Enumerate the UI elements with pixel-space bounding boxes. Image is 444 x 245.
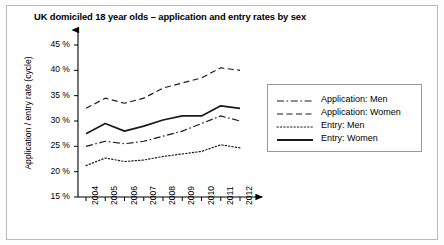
chart-figure: UK domiciled 18 year olds – application …	[0, 0, 444, 245]
legend: Application: MenApplication: WomenEntry:…	[267, 84, 422, 152]
legend-item[interactable]: Application: Women	[276, 105, 415, 118]
series-line	[86, 145, 240, 166]
series-line	[86, 106, 240, 134]
legend-item[interactable]: Entry: Men	[276, 118, 415, 131]
legend-label: Entry: Men	[321, 120, 365, 130]
legend-item[interactable]: Application: Men	[276, 92, 415, 105]
legend-key-dashed-icon	[276, 106, 314, 118]
legend-key-dash-dot-icon	[276, 93, 314, 105]
series-line	[86, 68, 240, 109]
legend-label: Application: Women	[321, 107, 401, 117]
legend-label: Application: Men	[321, 94, 388, 104]
axes	[74, 30, 262, 201]
legend-label: Entry: Women	[321, 133, 378, 143]
legend-key-dotted-icon	[276, 119, 314, 131]
legend-item[interactable]: Entry: Women	[276, 131, 415, 144]
legend-key-solid-icon	[276, 132, 314, 144]
data-series	[86, 68, 240, 166]
